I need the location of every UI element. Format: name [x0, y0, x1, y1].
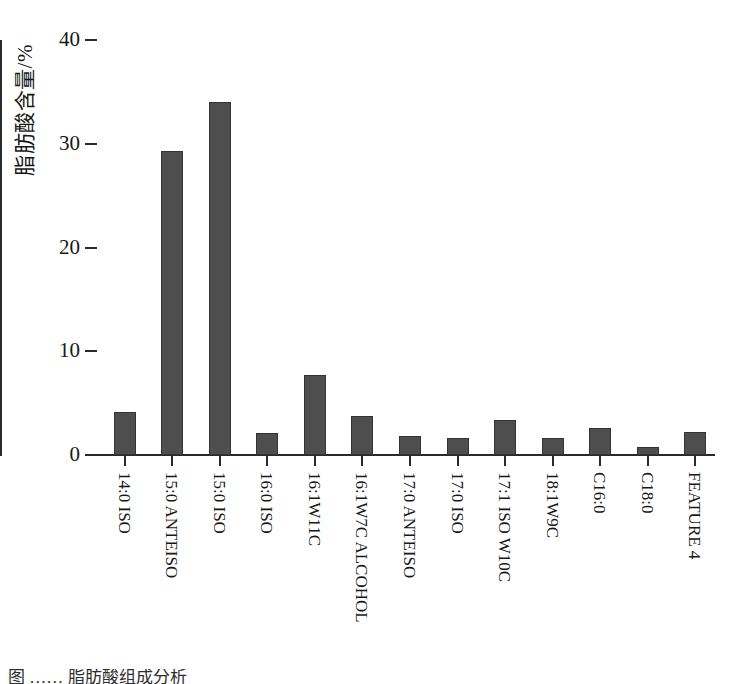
x-axis-tick-label: 18:1W9C — [543, 472, 561, 684]
bar — [209, 102, 231, 455]
x-axis-tick-label: 17:1 ISO W10C — [495, 472, 513, 684]
x-axis-tick-label: 16:1W11C — [305, 472, 323, 684]
x-axis-tick — [171, 455, 173, 466]
x-axis-tick — [504, 455, 506, 466]
y-axis-tick-label: 40 — [20, 29, 80, 50]
x-axis-tick-label: 17:0 ANTEISO — [400, 472, 418, 684]
y-axis-tick-label: 0 — [20, 444, 80, 465]
bar — [494, 420, 516, 455]
bar — [256, 433, 278, 455]
x-axis-tick — [361, 455, 363, 466]
bar — [589, 428, 611, 455]
bar — [351, 416, 373, 455]
x-axis-tick-label: 16:1W7C ALCOHOL — [352, 472, 370, 684]
y-axis-tick — [85, 350, 97, 352]
bar — [304, 375, 326, 455]
y-axis-tick — [85, 247, 97, 249]
y-axis-tick-label: 10 — [20, 340, 80, 361]
x-axis-tick — [694, 455, 696, 466]
bar-series — [97, 40, 715, 455]
x-axis-tick-label: 17:0 ISO — [448, 472, 466, 684]
x-axis-tick — [552, 455, 554, 466]
y-axis-tick — [85, 143, 97, 145]
x-axis-tick-label: 16:0 ISO — [257, 472, 275, 684]
bar — [542, 438, 564, 455]
x-axis-tick — [219, 455, 221, 466]
figure-caption: 图 …… 脂肪酸组成分析 — [8, 669, 728, 684]
y-axis-tick-label: 30 — [20, 133, 80, 154]
bar — [161, 151, 183, 455]
y-axis-tick — [85, 39, 97, 41]
bar — [399, 436, 421, 455]
x-axis-tick-label: 14:0 ISO — [115, 472, 133, 684]
bar — [447, 438, 469, 455]
x-axis-tick-label: C16:0 — [590, 472, 608, 684]
x-axis-tick — [599, 455, 601, 466]
y-axis-tick-label: 20 — [20, 237, 80, 258]
bar — [684, 432, 706, 455]
x-axis-tick — [124, 455, 126, 466]
bar — [114, 412, 136, 455]
x-axis-tick-label: FEATURE 4 — [685, 472, 703, 684]
x-axis-tick — [266, 455, 268, 466]
x-axis-tick — [647, 455, 649, 466]
x-axis-tick-label: 15:0 ISO — [210, 472, 228, 684]
x-axis-tick-label: 15:0 ANTEISO — [162, 472, 180, 684]
figure-bar-chart: 脂肪酸含量/% 010203040 14:0 ISO15:0 ANTEISO15… — [0, 0, 740, 684]
x-axis-tick — [409, 455, 411, 466]
bar — [637, 447, 659, 455]
x-axis-tick — [314, 455, 316, 466]
y-axis-tick — [85, 454, 97, 456]
x-axis-tick-label: C18:0 — [638, 472, 656, 684]
x-axis-tick — [457, 455, 459, 466]
